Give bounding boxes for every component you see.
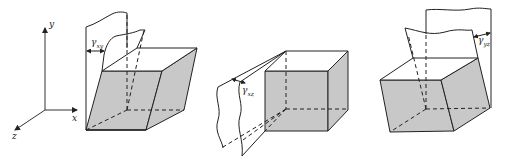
x-axis-label: x [72,114,77,123]
figure-shear-xz [217,51,348,156]
shear-strain-diagram [0,0,506,163]
z-axis-label: z [12,132,17,141]
figure-shear-yz [380,8,491,132]
gamma-subscript: xy [96,42,103,49]
gamma-subscript: yz [483,40,490,47]
gamma-xy-label: γxy [91,38,103,49]
y-axis-label: y [49,20,54,29]
gamma-yz-label: γyz [478,36,490,47]
coordinate-axes [15,28,77,130]
gamma-subscript: xz [247,90,254,97]
z-axis [15,110,45,130]
figure-shear-xy [86,12,197,130]
gamma-xz-label: γxz [242,86,254,97]
